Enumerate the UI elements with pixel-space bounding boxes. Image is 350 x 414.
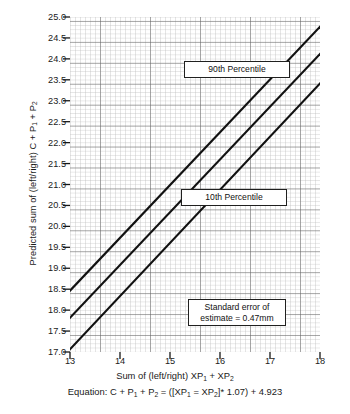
annotation-90th-percentile: 90th Percentile bbox=[184, 61, 290, 78]
equation-mid1: + P bbox=[137, 386, 154, 397]
x-tick-label: 13 bbox=[55, 356, 85, 366]
prediction-chart-figure: 17.0 17.5 18.0 18.5 19.0 19.5 20.0 20.5 … bbox=[0, 0, 350, 414]
equation-caption: Equation: C + P1 + P2 = ([XP1 = XP2]* 1.… bbox=[0, 386, 350, 398]
annotation-standard-error-line1: Standard error of bbox=[192, 302, 282, 313]
annotation-standard-error-line2: estimate = 0.47mm bbox=[192, 313, 282, 324]
x-axis-tick-labels: 13 14 15 16 17 18 bbox=[0, 356, 350, 370]
x-axis-title-sub2: 2 bbox=[230, 375, 234, 382]
equation-lead: Equation: C + P bbox=[68, 386, 134, 397]
equation-mid3: = XP bbox=[191, 386, 214, 397]
x-axis-title-lead: Sum of (left/right) XP bbox=[116, 370, 203, 381]
y-axis-title-lead: Predicted sum of (left/right) C + P bbox=[28, 126, 38, 266]
x-axis-title: Sum of (left/right) XP1 + XP2 bbox=[0, 370, 350, 382]
x-tick-label: 15 bbox=[155, 356, 185, 366]
x-tick-label: 18 bbox=[305, 356, 335, 366]
y-axis-title-sub1: 1 bbox=[31, 122, 38, 126]
annotation-standard-error: Standard error of estimate = 0.47mm bbox=[188, 299, 286, 326]
x-tick-label: 16 bbox=[205, 356, 235, 366]
annotation-10th-percentile: 10th Percentile bbox=[181, 189, 287, 206]
x-axis-title-mid: + XP bbox=[207, 370, 230, 381]
x-tick-label: 14 bbox=[105, 356, 135, 366]
equation-tail: ]* 1.07) + 4.923 bbox=[218, 386, 282, 397]
x-tick-label: 17 bbox=[255, 356, 285, 366]
y-axis-title: Predicted sum of (left/right) C + P1 + P… bbox=[28, 18, 39, 348]
y-axis-title-sub2: 2 bbox=[31, 101, 38, 105]
equation-mid2: = ([XP bbox=[158, 386, 187, 397]
y-axis-title-mid: + P bbox=[28, 105, 38, 122]
